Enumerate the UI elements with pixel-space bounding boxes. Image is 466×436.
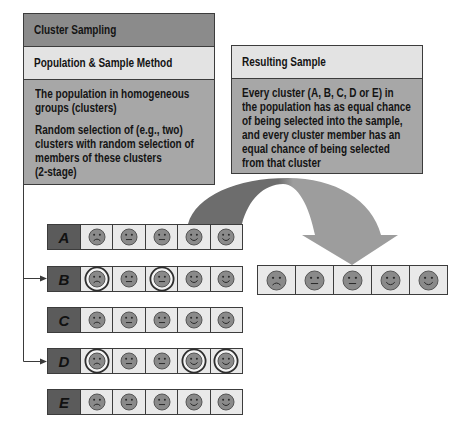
cluster-row-e: E — [47, 389, 243, 415]
smile-face-icon — [180, 347, 208, 375]
population-description: The population in homogeneous groups (cl… — [35, 87, 214, 115]
smile-face-icon — [212, 306, 240, 334]
member-cell — [81, 390, 113, 414]
member-cell — [81, 308, 113, 332]
sample-member-cell — [258, 266, 296, 294]
text-line: clusters with random selection of — [35, 137, 178, 151]
arrowhead-d-icon — [40, 359, 47, 365]
neutral-face-icon — [148, 388, 176, 416]
panel-title: Resulting Sample — [242, 55, 326, 69]
member-cell — [178, 390, 210, 414]
member-cell — [146, 390, 178, 414]
selected-member-cell — [178, 349, 210, 373]
member-cell — [113, 267, 145, 291]
smile-face-icon — [180, 265, 208, 293]
frown-face-icon — [83, 306, 111, 334]
smile-face-icon — [180, 388, 208, 416]
member-cell — [113, 390, 145, 414]
text-line: The population in homogeneous — [35, 87, 178, 101]
smile-face-icon — [375, 265, 406, 296]
text-line: Random selection of (e.g., two) — [35, 123, 178, 137]
panel-title-bar: Cluster Sampling — [24, 14, 214, 47]
selected-member-cell — [81, 267, 113, 291]
smile-face-icon — [413, 265, 444, 296]
member-cell — [211, 225, 242, 249]
cluster-label: E — [48, 390, 81, 414]
frown-face-icon — [83, 388, 111, 416]
cluster-label: A — [48, 225, 81, 249]
result-description: Every cluster (A, B, C, D or E) in the p… — [232, 79, 422, 173]
member-cell — [113, 225, 145, 249]
frown-face-icon — [83, 347, 111, 375]
member-cell — [113, 349, 145, 373]
neutral-face-icon — [148, 306, 176, 334]
cluster-label: D — [48, 349, 81, 373]
neutral-face-icon — [337, 265, 368, 296]
smile-face-icon — [180, 306, 208, 334]
neutral-face-icon — [299, 265, 330, 296]
cluster-row-c: C — [47, 307, 243, 333]
neutral-face-icon — [148, 347, 176, 375]
sampling-method-description: Random selection of (e.g., two) clusters… — [35, 123, 214, 179]
text-line: of being selected into the sample, — [242, 114, 386, 128]
member-cell — [211, 390, 242, 414]
curved-arrow-icon — [188, 178, 398, 265]
neutral-face-icon — [115, 388, 143, 416]
selected-member-cell — [211, 349, 242, 373]
resulting-sample-row — [257, 265, 448, 295]
smile-face-icon — [212, 223, 240, 251]
panel-title-bar: Resulting Sample — [232, 46, 422, 79]
sample-member-cell — [410, 266, 447, 294]
member-cell — [178, 308, 210, 332]
frown-face-icon — [261, 265, 292, 296]
cluster-label: C — [48, 308, 81, 332]
neutral-face-icon — [148, 265, 176, 293]
cluster-row-a: A — [47, 224, 243, 250]
smile-face-icon — [212, 347, 240, 375]
member-cell — [113, 308, 145, 332]
neutral-face-icon — [115, 223, 143, 251]
panel-subtitle: Population & Sample Method — [34, 56, 172, 70]
member-cell — [81, 225, 113, 249]
text-line: groups (clusters) — [35, 101, 178, 115]
neutral-face-icon — [148, 223, 176, 251]
text-line: Every cluster (A, B, C, D or E) in — [242, 86, 386, 100]
text-line: the population has as equal chance — [242, 100, 386, 114]
arrowhead-b-icon — [40, 276, 47, 282]
text-line: equal chance of being selected — [242, 142, 386, 156]
text-line: (2-stage) — [35, 165, 178, 179]
member-cell — [146, 225, 178, 249]
text-line: from that cluster — [242, 156, 386, 170]
frown-face-icon — [83, 265, 111, 293]
neutral-face-icon — [115, 347, 143, 375]
neutral-face-icon — [115, 265, 143, 293]
frown-face-icon — [83, 223, 111, 251]
text-line: and every cluster member has an — [242, 128, 386, 142]
sample-member-cell — [334, 266, 372, 294]
neutral-face-icon — [115, 306, 143, 334]
sample-member-cell — [372, 266, 410, 294]
panel-title: Cluster Sampling — [34, 23, 116, 37]
selected-member-cell — [81, 349, 113, 373]
resulting-sample-panel: Resulting Sample Every cluster (A, B, C,… — [231, 45, 423, 174]
connector-lines — [24, 184, 43, 362]
panel-subtitle-bar: Population & Sample Method — [24, 47, 214, 80]
member-cell — [146, 308, 178, 332]
member-cell — [178, 267, 210, 291]
member-cell — [146, 349, 178, 373]
sample-member-cell — [296, 266, 334, 294]
cluster-label: B — [48, 267, 81, 291]
text-line: members of these clusters — [35, 151, 178, 165]
smile-face-icon — [212, 265, 240, 293]
smile-face-icon — [180, 223, 208, 251]
member-cell — [211, 267, 242, 291]
cluster-row-d: D — [47, 348, 243, 374]
smile-face-icon — [212, 388, 240, 416]
cluster-row-b: B — [47, 266, 243, 292]
member-cell — [211, 308, 242, 332]
method-description: The population in homogeneous groups (cl… — [24, 80, 214, 184]
member-cell — [178, 225, 210, 249]
selected-member-cell — [146, 267, 178, 291]
population-method-panel: Cluster Sampling Population & Sample Met… — [23, 13, 215, 185]
